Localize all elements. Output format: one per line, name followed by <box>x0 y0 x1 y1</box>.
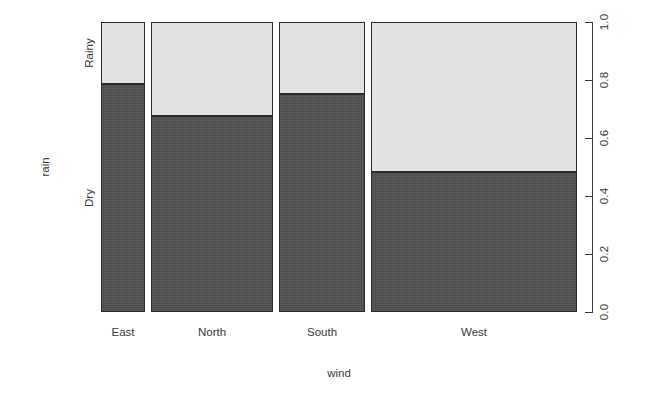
bar-column-west[interactable] <box>371 22 577 312</box>
tile-west-dry[interactable] <box>371 172 577 312</box>
y-axis-tick-label: 0.6 <box>599 130 611 147</box>
tile-east-dry[interactable] <box>101 84 145 312</box>
y-axis-tick <box>585 22 593 23</box>
y-category-label-dry: Dry <box>84 189 96 207</box>
tile-south-rainy[interactable] <box>279 22 365 94</box>
plot-area <box>101 22 578 312</box>
x-axis-title: wind <box>327 368 351 380</box>
y-axis-title: rain <box>40 157 52 176</box>
y-axis-tick <box>585 80 593 81</box>
tile-east-rainy[interactable] <box>101 22 145 84</box>
tile-south-dry[interactable] <box>279 94 365 312</box>
x-axis-tick-label-north: North <box>198 327 226 339</box>
y-axis-line <box>592 22 593 313</box>
y-axis-tick-label: 1.0 <box>599 14 611 31</box>
y-category-label-rainy: Rainy <box>84 38 96 67</box>
bar-column-east[interactable] <box>101 22 145 312</box>
mosaic-plot: 1.0 0.8 0.6 0.4 0.2 0.0 East North South… <box>0 0 645 400</box>
y-axis-tick <box>585 254 593 255</box>
y-axis-tick-label: 0.2 <box>599 246 611 263</box>
y-axis-tick-label: 0.4 <box>599 188 611 205</box>
x-axis-tick-label-west: West <box>461 327 487 339</box>
tile-north-rainy[interactable] <box>151 22 273 116</box>
y-axis-tick <box>585 138 593 139</box>
x-axis-tick-label-south: South <box>307 327 337 339</box>
bar-column-south[interactable] <box>279 22 365 312</box>
tile-west-rainy[interactable] <box>371 22 577 172</box>
y-axis-tick-label: 0.8 <box>599 72 611 89</box>
y-axis-tick <box>585 312 593 313</box>
y-axis-tick <box>585 196 593 197</box>
y-axis-tick-label: 0.0 <box>599 304 611 321</box>
bar-column-north[interactable] <box>151 22 273 312</box>
tile-north-dry[interactable] <box>151 116 273 312</box>
x-axis-tick-label-east: East <box>111 327 134 339</box>
